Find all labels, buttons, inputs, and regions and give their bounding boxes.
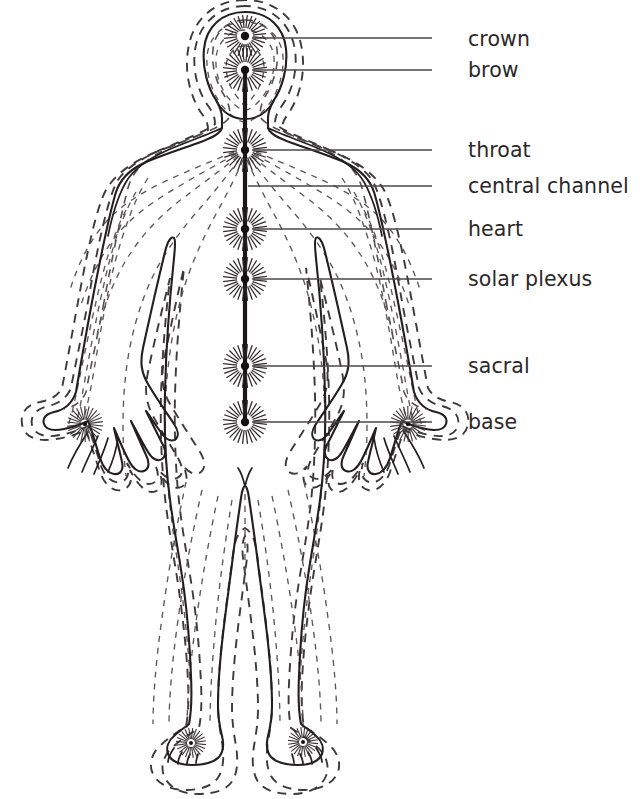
label-solar-plexus: solar plexus bbox=[468, 269, 592, 290]
aura-inner-arm-right bbox=[386, 302, 426, 409]
chakra-dot-base bbox=[241, 418, 249, 426]
leg-field-right-1 bbox=[258, 500, 280, 726]
leg-field-left-1 bbox=[210, 500, 232, 726]
chakra-dot-palm-left bbox=[83, 422, 87, 426]
field-line-l2 bbox=[123, 158, 240, 476]
hand-fingers-right bbox=[374, 432, 424, 474]
subtle-body-figure bbox=[0, 0, 642, 799]
chakra-dot-heart bbox=[241, 225, 249, 233]
label-central-channel: central channel bbox=[468, 176, 629, 197]
chakra-dot-throat bbox=[241, 146, 249, 154]
label-brow: brow bbox=[468, 60, 519, 81]
chakra-diagram: crownbrowthroatcentral channelheartsolar… bbox=[0, 0, 642, 799]
label-heart: heart bbox=[468, 219, 523, 240]
chakra-dot-brow bbox=[241, 66, 249, 74]
chakra-dot-sole-left bbox=[189, 741, 193, 745]
arm-field-right-2 bbox=[354, 192, 414, 422]
arm-field-left-2 bbox=[76, 192, 136, 422]
crotch-line bbox=[238, 468, 252, 486]
chakra-dot-sole-right bbox=[301, 740, 305, 744]
chakra-dot-sacral bbox=[241, 362, 249, 370]
label-base: base bbox=[468, 412, 517, 433]
label-throat: throat bbox=[468, 140, 531, 161]
chakra-dot-solar-plexus bbox=[241, 275, 249, 283]
chakra-dot-crown bbox=[241, 32, 249, 40]
label-crown: crown bbox=[468, 29, 530, 50]
field-line-r2 bbox=[250, 158, 367, 476]
label-sacral: sacral bbox=[468, 356, 530, 377]
